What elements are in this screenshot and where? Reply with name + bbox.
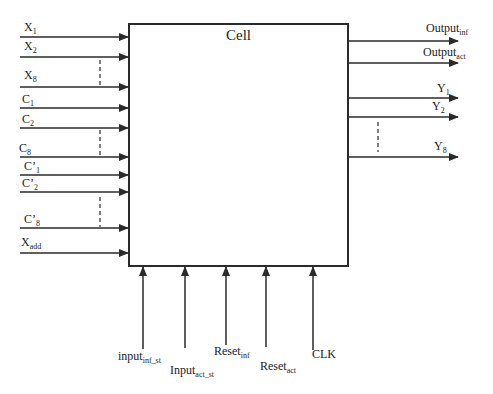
output-label-right: Y2 xyxy=(432,100,445,115)
signal-name: C xyxy=(22,92,30,106)
signal-name: CLK xyxy=(312,347,336,361)
signal-subscript: 1 xyxy=(33,27,37,36)
input-label-left: C’1 xyxy=(24,160,40,175)
input-label-left: X1 xyxy=(24,21,37,36)
signal-subscript: 2 xyxy=(441,106,445,115)
input-label-bottom: inputinf_st xyxy=(118,350,161,365)
input-label-bottom: CLK xyxy=(312,348,336,360)
signal-name: C’ xyxy=(24,159,36,173)
cell-block-diagram xyxy=(0,0,493,394)
signal-subscript: 1 xyxy=(446,88,450,97)
signal-subscript: 2 xyxy=(33,46,37,55)
signal-subscript: 8 xyxy=(443,146,447,155)
output-label-right: Y1 xyxy=(437,82,450,97)
signal-subscript: act_st xyxy=(195,370,214,379)
input-label-left: X8 xyxy=(24,69,37,84)
signal-name: Y xyxy=(434,139,443,153)
signal-name: Y xyxy=(432,99,441,113)
signal-name: Y xyxy=(437,81,446,95)
signal-subscript: 1 xyxy=(30,99,34,108)
input-label-left: C1 xyxy=(22,93,34,108)
input-label-bottom: Resetact xyxy=(260,360,296,375)
signal-subscript: inf xyxy=(241,351,250,360)
cell-title: Cell xyxy=(226,28,251,43)
output-label-right: Outputact xyxy=(423,46,466,61)
signal-subscript: 8 xyxy=(27,148,31,157)
signal-name: Reset xyxy=(214,344,241,358)
signal-subscript: 8 xyxy=(36,219,40,228)
input-label-left: C’8 xyxy=(24,213,40,228)
signal-name: Output xyxy=(426,21,459,35)
signal-name: X xyxy=(21,235,30,249)
signal-name: X xyxy=(24,20,33,34)
signal-name: C’ xyxy=(22,176,34,190)
signal-subscript: inf_st xyxy=(143,356,161,365)
input-label-left: C2 xyxy=(22,113,34,128)
output-label-right: Y8 xyxy=(434,140,447,155)
input-label-bottom: Inputact_st xyxy=(170,364,214,379)
signal-name: Reset xyxy=(260,359,287,373)
cell-box xyxy=(129,24,348,266)
signal-subscript: act xyxy=(287,366,296,375)
signal-name: C xyxy=(19,141,27,155)
signal-name: C xyxy=(22,112,30,126)
input-label-left: C8 xyxy=(19,142,31,157)
input-label-left: C’2 xyxy=(22,177,38,192)
input-label-left: Xadd xyxy=(21,236,41,251)
signal-name: Output xyxy=(423,45,456,59)
signal-subscript: inf xyxy=(459,28,468,37)
signal-subscript: 1 xyxy=(36,166,40,175)
signal-subscript: add xyxy=(30,242,42,251)
signal-name: C’ xyxy=(24,212,36,226)
output-label-right: Outputinf xyxy=(426,22,468,37)
signal-name: X xyxy=(24,68,33,82)
signal-name: Input xyxy=(170,363,195,377)
signal-subscript: 2 xyxy=(30,119,34,128)
signal-subscript: 8 xyxy=(33,75,37,84)
input-label-bottom: Resetinf xyxy=(214,345,250,360)
signal-subscript: act xyxy=(456,52,465,61)
input-label-left: X2 xyxy=(24,40,37,55)
signal-subscript: 2 xyxy=(34,183,38,192)
signal-name: input xyxy=(118,349,143,363)
signal-name: X xyxy=(24,39,33,53)
